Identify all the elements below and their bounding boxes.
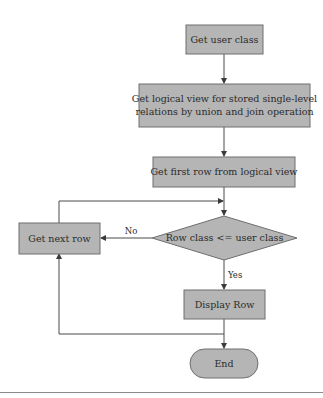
node-label: Get first row from logical view	[151, 166, 298, 177]
node-get-first-row: Get first row from logical view	[151, 157, 298, 187]
edge-label-yes: Yes	[227, 270, 242, 280]
node-label: Row class <= user class	[166, 232, 284, 243]
edge-next-row-loop-back	[59, 201, 223, 223]
node-end: End	[190, 349, 258, 378]
node-label: Get next row	[28, 233, 90, 244]
node-display-row: Display Row	[184, 290, 265, 319]
node-get-user-class: Get user class	[186, 25, 263, 54]
node-get-logical-view: Get logical view for stored single-level…	[132, 84, 317, 127]
node-label: Display Row	[195, 299, 255, 310]
node-label: End	[214, 358, 233, 369]
edge-label-no: No	[125, 226, 138, 236]
node-label: Get user class	[191, 34, 259, 45]
node-label-line-1: Get logical view for stored single-level	[132, 93, 317, 104]
node-row-class-decision: Row class <= user class	[152, 216, 297, 260]
flowchart: Get user class Get logical view for stor…	[0, 0, 323, 398]
node-label-line-2: relations by union and join operation	[135, 106, 313, 117]
node-get-next-row: Get next row	[19, 223, 100, 254]
